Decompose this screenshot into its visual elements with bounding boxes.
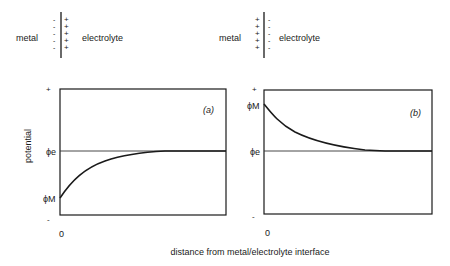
svg-text:-: - [268, 37, 271, 44]
metal-side-charges: + + + + + [255, 15, 260, 52]
phi-e-label: ϕe [46, 147, 56, 157]
electrolyte-side-charges: - - - - - [268, 16, 271, 51]
metal-label: metal [219, 33, 241, 43]
potential-curve [60, 151, 226, 198]
panel-a: + ϕe ϕM - 0 (a) [43, 85, 226, 239]
x-origin-label: 0 [265, 228, 270, 238]
plot-frame [60, 89, 226, 215]
y-bottom-mark: - [252, 212, 255, 221]
svg-text:-: - [53, 30, 56, 37]
svg-text:-: - [53, 37, 56, 44]
electrolyte-side-charges: + + + + + [64, 15, 69, 52]
svg-text:-: - [53, 23, 56, 30]
x-axis-label: distance from metal/electrolyte interfac… [170, 247, 329, 257]
svg-text:-: - [268, 23, 271, 30]
panel-b: + ϕM ϕe - 0 (b) [247, 85, 432, 238]
phi-m-label: ϕM [43, 194, 56, 204]
svg-text:-: - [53, 44, 56, 51]
y-top-mark: + [46, 85, 51, 94]
metal-side-charges: - - - - - [53, 16, 56, 51]
phi-e-label: ϕe [250, 147, 260, 157]
svg-text:-: - [53, 16, 56, 23]
potential-curve [264, 104, 432, 151]
svg-text:-: - [268, 44, 271, 51]
panel-tag: (b) [410, 108, 421, 118]
electrolyte-label: electrolyte [82, 33, 123, 43]
metal-label: metal [16, 33, 38, 43]
svg-text:-: - [268, 30, 271, 37]
x-origin-label: 0 [59, 229, 64, 239]
y-top-mark: + [252, 85, 257, 94]
phi-m-label: ϕM [247, 101, 260, 111]
electrolyte-label: electrolyte [279, 33, 320, 43]
double-layer-figure: metal - - - - - + + + + + electrolyte me… [0, 0, 450, 266]
svg-text:+: + [64, 43, 69, 52]
plot-frame [264, 90, 432, 214]
y-bottom-mark: - [47, 215, 50, 224]
svg-text:-: - [268, 16, 271, 23]
svg-text:+: + [255, 43, 260, 52]
panel-tag: (a) [203, 105, 214, 115]
schematic-left: metal - - - - - + + + + + electrolyte [16, 12, 123, 58]
y-axis-label: potential [23, 129, 33, 163]
schematic-right: metal + + + + + - - - - - electrolyte [219, 12, 320, 58]
